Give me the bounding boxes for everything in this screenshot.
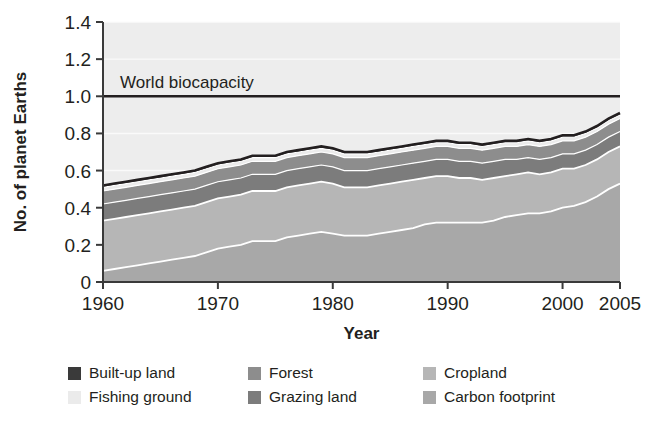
legend-label-fishing-ground: Fishing ground: [89, 388, 192, 405]
legend-label-cropland: Cropland: [444, 364, 507, 381]
legend-swatch-built-up-land: [68, 367, 81, 380]
legend-swatch-carbon-footprint: [423, 391, 436, 404]
x-tick-label: 1960: [82, 293, 124, 314]
y-tick-label: 1.4: [65, 12, 92, 33]
legend-label-grazing-land: Grazing land: [269, 388, 357, 405]
y-tick-label: 1.0: [65, 86, 91, 107]
y-tick-label: 0: [80, 272, 91, 293]
world-biocapacity-label: World biocapacity: [120, 73, 254, 92]
x-tick-label: 1990: [427, 293, 469, 314]
chart-container: World biocapacity 00.20.40.60.81.01.21.4…: [0, 0, 659, 436]
legend-swatch-grazing-land: [248, 391, 261, 404]
y-tick-label: 0.6: [65, 161, 91, 182]
legend-label-carbon-footprint: Carbon footprint: [444, 388, 556, 405]
y-axis-title: No. of planet Earths: [11, 72, 30, 233]
x-tick-label: 1970: [197, 293, 239, 314]
legend-swatch-forest: [248, 367, 261, 380]
y-tick-label: 0.2: [65, 235, 91, 256]
legend-swatch-fishing-ground: [68, 391, 81, 404]
x-axis-title: Year: [344, 324, 380, 343]
y-tick-label: 0.8: [65, 123, 91, 144]
y-tick-label: 1.2: [65, 49, 91, 70]
ecological-footprint-chart: World biocapacity 00.20.40.60.81.01.21.4…: [0, 0, 659, 436]
legend-label-built-up-land: Built-up land: [89, 364, 175, 381]
x-tick-label: 1980: [312, 293, 354, 314]
x-tick-label: 2000: [541, 293, 583, 314]
legend-label-forest: Forest: [269, 364, 314, 381]
legend-swatch-cropland: [423, 367, 436, 380]
x-tick-label: 2005: [599, 293, 641, 314]
y-tick-label: 0.4: [65, 198, 92, 219]
